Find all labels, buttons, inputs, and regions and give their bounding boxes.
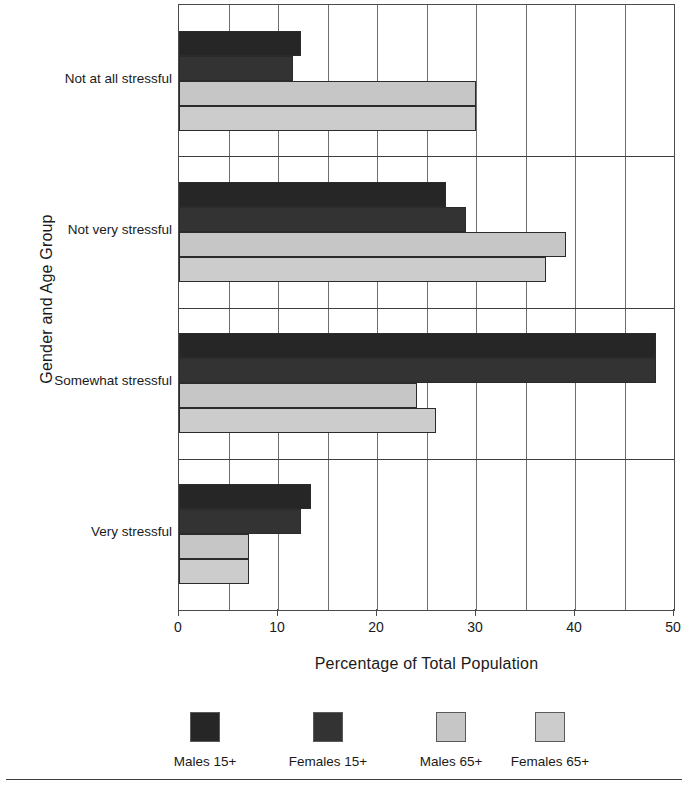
x-tick-50: [673, 609, 674, 616]
bar-females-65--not-very-stressful: [179, 257, 546, 282]
bar-series-container: [179, 5, 674, 610]
bar-males-65--not-very-stressful: [179, 232, 566, 257]
legend-swatch-icon: [190, 712, 220, 742]
footer-rule: [6, 779, 682, 780]
bar-females-15--very-stressful: [179, 509, 301, 534]
legend-label: Females 65+: [495, 754, 605, 769]
x-tick-label-30: 30: [445, 619, 505, 635]
plot-area: [178, 4, 675, 611]
legend-swatch-icon: [535, 712, 565, 742]
bar-males-15--somewhat-stressful: [179, 333, 656, 358]
bar-males-65--very-stressful: [179, 534, 249, 559]
y-tick-label-somewhat-stressful: Somewhat stressful: [12, 373, 172, 388]
x-tick-10: [277, 609, 278, 616]
legend-label: Females 15+: [273, 754, 383, 769]
x-tick-label-10: 10: [247, 619, 307, 635]
bar-females-15--not-very-stressful: [179, 207, 466, 232]
legend-swatch-icon: [436, 712, 466, 742]
x-axis: 01020304050: [178, 609, 675, 659]
x-tick-label-50: 50: [643, 619, 689, 635]
bar-females-15--somewhat-stressful: [179, 358, 656, 383]
bar-males-15--not-very-stressful: [179, 182, 446, 207]
x-tick-label-40: 40: [544, 619, 604, 635]
y-tick-label-not-at-all-stressful: Not at all stressful: [12, 71, 172, 86]
x-tick-40: [574, 609, 575, 616]
legend-item-males-15-[interactable]: Males 15+: [150, 712, 260, 769]
bar-females-65--not-at-all-stressful: [179, 106, 476, 131]
legend-label: Males 15+: [150, 754, 260, 769]
y-tick-label-very-stressful: Very stressful: [12, 524, 172, 539]
legend-item-males-65-[interactable]: Males 65+: [396, 712, 506, 769]
y-tick-label-not-very-stressful: Not very stressful: [12, 222, 172, 237]
bar-females-15--not-at-all-stressful: [179, 56, 293, 81]
legend-swatch-icon: [313, 712, 343, 742]
bar-males-15--very-stressful: [179, 484, 311, 509]
bar-males-15--not-at-all-stressful: [179, 31, 301, 56]
x-tick-0: [178, 609, 179, 616]
x-tick-label-0: 0: [148, 619, 208, 635]
x-tick-30: [475, 609, 476, 616]
bar-males-65--somewhat-stressful: [179, 383, 417, 408]
bar-females-65--somewhat-stressful: [179, 408, 436, 433]
chart-legend: Males 15+Females 15+Males 65+Females 65+: [150, 712, 610, 772]
x-tick-20: [376, 609, 377, 616]
legend-item-females-15-[interactable]: Females 15+: [273, 712, 383, 769]
y-axis-tick-labels: Not at all stressfulNot very stressfulSo…: [0, 0, 172, 610]
x-tick-label-20: 20: [346, 619, 406, 635]
legend-item-females-65-[interactable]: Females 65+: [495, 712, 605, 769]
x-axis-title: Percentage of Total Population: [178, 655, 675, 673]
bar-females-65--very-stressful: [179, 559, 249, 584]
bar-chart-figure: Gender and Age Group Not at all stressfu…: [0, 0, 689, 793]
legend-label: Males 65+: [396, 754, 506, 769]
bar-males-65--not-at-all-stressful: [179, 81, 476, 106]
